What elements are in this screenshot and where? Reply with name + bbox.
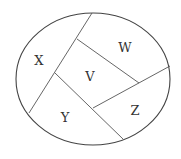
region-label-w: W (118, 40, 132, 55)
region-label-z: Z (130, 103, 139, 118)
region-label-y: Y (60, 110, 70, 125)
region-label-x: X (34, 53, 44, 68)
diagram-svg: X W V Y Z (0, 0, 181, 159)
divider-w-z (93, 66, 170, 108)
region-label-v: V (84, 69, 95, 84)
region-diagram: X W V Y Z (0, 0, 181, 159)
